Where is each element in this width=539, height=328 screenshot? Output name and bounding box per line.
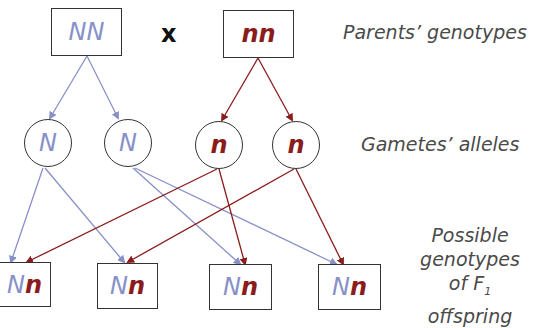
label-line: of F1 offspring	[405, 271, 535, 328]
gamete-allele: n	[210, 131, 227, 159]
cross-symbol: x	[161, 20, 176, 48]
dominant-allele: N	[110, 272, 128, 300]
offspring-genotype-box: Nn	[318, 264, 381, 310]
label-offspring-genotypes: Possible genotypes of F1 offspring	[405, 223, 535, 328]
parent-genotype-box-recessive: nn	[223, 10, 294, 58]
parent-genotype-box-dominant: NN	[51, 8, 122, 56]
recessive-allele: n	[128, 272, 145, 300]
recessive-allele: n	[350, 273, 367, 301]
label-text: offspring	[428, 305, 513, 327]
dominant-allele: N	[332, 273, 350, 301]
subscript: 1	[484, 285, 491, 298]
label-line: Possible	[405, 223, 535, 247]
offspring-genotype-box: Nn	[0, 262, 51, 307]
offspring-genotype-box: Nn	[97, 263, 158, 309]
gamete-circle: n	[272, 121, 320, 169]
dominant-allele: N	[223, 273, 241, 301]
label-line: genotypes	[405, 247, 535, 271]
gamete-circle: N	[24, 119, 72, 167]
gamete-allele: n	[287, 131, 304, 159]
label-parents-genotypes: Parents’ genotypes	[343, 21, 527, 43]
offspring-genotype-box: Nn	[209, 264, 272, 310]
dominant-allele: N	[7, 271, 25, 299]
recessive-allele: n	[25, 271, 42, 299]
recessive-allele: n	[241, 273, 258, 301]
gamete-allele: N	[39, 129, 57, 157]
parent-genotype-text: nn	[241, 20, 275, 48]
parent-genotype-text: NN	[69, 18, 105, 46]
label-text: of F	[449, 272, 484, 294]
gamete-allele: N	[119, 129, 137, 157]
gamete-circle: n	[195, 121, 243, 169]
label-gametes-alleles: Gametes’ alleles	[361, 133, 519, 155]
gamete-circle: N	[104, 119, 152, 167]
